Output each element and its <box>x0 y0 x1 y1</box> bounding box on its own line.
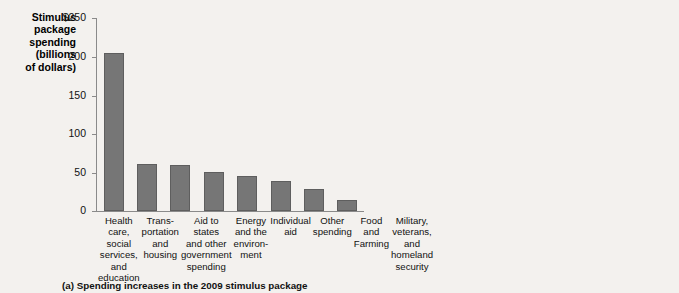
bar-individual-aid <box>237 176 257 212</box>
bar-slot <box>130 18 163 211</box>
y-tick-150-spending: 150 <box>92 96 96 97</box>
bar-aid-to-states <box>170 165 190 211</box>
x-label-health-care: Health care, social services, and educat… <box>97 215 141 283</box>
bar-food-farming <box>304 189 324 211</box>
y-tick-250-spending: $250 <box>92 18 96 19</box>
y-tick-100-spending: 100 <box>92 134 96 135</box>
bar-slot <box>264 18 297 211</box>
x-axis-line-spending <box>96 211 364 212</box>
bar-transportation <box>137 164 157 211</box>
y-tick-50-spending: 50 <box>92 173 96 174</box>
bar-group-spending <box>97 18 364 211</box>
plot-area-spending: $250 200 150 100 50 0 <box>96 18 364 212</box>
y-tick-200-spending: 200 <box>92 57 96 58</box>
bar-slot <box>331 18 364 211</box>
panel-tax-cuts: Tax Cuts (billions of dollars) $250 200 … <box>415 0 679 293</box>
y-tick-label-150-spending: 150 <box>68 89 86 101</box>
panel-spending-increases: Stimulus package spending (billions of d… <box>0 0 415 293</box>
two-panel-bar-chart-figure: Stimulus package spending (billions of d… <box>0 0 679 293</box>
x-axis-category-labels-spending: Health care, social services, and educat… <box>97 215 365 283</box>
y-tick-label-100-spending: 100 <box>68 127 86 139</box>
y-tick-0-spending: 0 <box>92 211 96 212</box>
bar-energy-environment <box>204 172 224 211</box>
panel-a-caption: (a) Spending increases in the 2009 stimu… <box>62 280 308 291</box>
x-label-food-farming: Food and Farming <box>353 215 390 283</box>
bar-health-care <box>104 53 124 211</box>
y-tick-label-200-spending: 200 <box>68 50 86 62</box>
x-label-transportation: Trans- portation and housing <box>141 215 180 283</box>
x-label-individual-aid: Individual aid <box>269 215 312 283</box>
bar-slot <box>97 18 130 211</box>
y-tick-label-250-spending: $250 <box>63 11 86 23</box>
bar-slot <box>164 18 197 211</box>
y-tick-label-0-spending: 0 <box>80 204 86 216</box>
bar-slot <box>297 18 330 211</box>
bar-slot <box>231 18 264 211</box>
x-label-other-spending: Other spending <box>312 215 353 283</box>
bar-military-veterans <box>337 200 357 211</box>
bar-other-spending <box>271 181 291 211</box>
x-label-energy-environment: Energy and the environ- ment <box>233 215 270 283</box>
bar-slot <box>197 18 230 211</box>
y-tick-label-50-spending: 50 <box>74 166 86 178</box>
x-label-aid-to-states: Aid to states and other government spend… <box>180 215 233 283</box>
